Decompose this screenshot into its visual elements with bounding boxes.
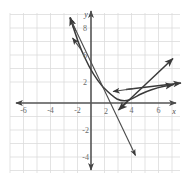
y-tick-label: 2 [83,78,87,87]
x-tick-labels: -6 -4 -2 2 4 6 [20,106,160,116]
x-tick-label: 2 [104,107,108,116]
series-line-shallow-left-arrow [113,89,134,92]
y-tick-label: -4 [82,153,89,162]
y-axis-label: y [83,10,88,19]
y-tick-label: -2 [82,126,89,135]
x-tick-label: -2 [74,106,81,115]
x-tick-label: -4 [47,106,54,115]
x-tick-label: 6 [157,106,161,115]
x-tick-label: 4 [130,106,134,115]
series-line-steep-negative [70,19,135,156]
y-tick-label: 6 [83,51,87,60]
x-tick-label: -6 [20,106,27,115]
coordinate-plane-chart: -6 -4 -2 2 4 6 8 6 2 -2 -4 x y [0,0,191,182]
chart-svg: -6 -4 -2 2 4 6 8 6 2 -2 -4 x y [0,0,191,182]
x-axis-label: x [171,107,176,116]
y-tick-label: 8 [83,24,87,33]
series-line-rising-right [120,59,174,110]
y-tick-labels: 8 6 2 -2 -4 [82,24,89,162]
series-line-steep-negative-start-arrow [70,18,76,31]
grid-lines [10,13,180,173]
